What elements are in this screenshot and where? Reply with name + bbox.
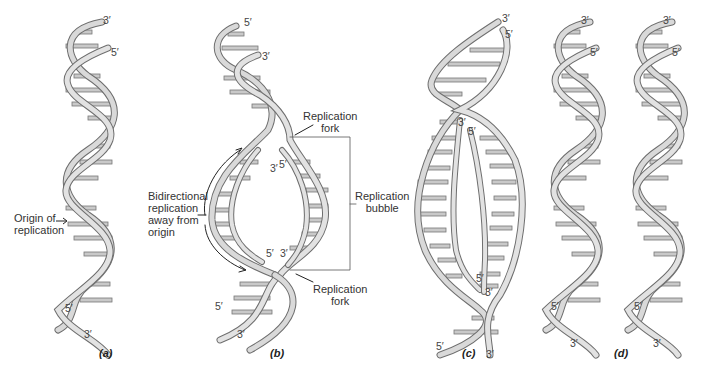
caption-c: (c) (462, 347, 475, 359)
replication-fork-top-label: Replication fork (303, 110, 357, 134)
end-label-b-bottom-5prime: 5′ (215, 300, 223, 312)
end-label-c-inner-bottom-3prime: 3′ (485, 286, 493, 298)
end-label-c-top-5prime: 5′ (505, 28, 513, 40)
bidirectional-line4: origin (148, 226, 208, 238)
helix-c-separated (418, 22, 522, 355)
bubble-line1: Replication (355, 190, 409, 202)
origin-label-line1: Origin of (14, 212, 64, 224)
end-label-d1-bottom-5prime: 5′ (551, 300, 559, 312)
replication-bubble-label: Replication bubble (355, 190, 409, 214)
fork-bottom-line2: fork (313, 295, 367, 307)
caption-b: (b) (270, 347, 284, 359)
end-label-c-inner-3prime: 3′ (458, 116, 466, 128)
end-label-d2-top-3prime: 3′ (663, 14, 671, 26)
bidirectional-line1: Bidirectional (148, 190, 208, 202)
end-label-b-inner-bottom-5prime: 5′ (266, 247, 274, 259)
end-label-b-inner-bottom-3prime: 3′ (280, 247, 288, 259)
end-label-c-top-3prime: 3′ (502, 12, 510, 24)
origin-label-line2: replication (14, 224, 64, 236)
fork-top-line1: Replication (303, 110, 357, 122)
caption-d: (d) (614, 347, 628, 359)
end-label-a-bottom-5prime: 5′ (65, 302, 73, 314)
replication-fork-bottom-label: Replication fork (313, 283, 367, 307)
end-label-d1-top-5prime: 5′ (590, 46, 598, 58)
bidirectional-line3: away from (148, 214, 208, 226)
end-label-b-top-5prime: 5′ (244, 16, 252, 28)
end-label-a-top-5prime: 5′ (111, 46, 119, 58)
dna-replication-diagram (0, 0, 722, 370)
end-label-c-inner-5prime: 5′ (468, 125, 476, 137)
fork-top-line2: fork (303, 122, 357, 134)
end-label-b-top-3prime: 3′ (262, 50, 270, 62)
end-label-d2-top-5prime: 5′ (672, 46, 680, 58)
end-label-b-inner-3prime: 3′ (270, 162, 278, 174)
end-label-d1-top-3prime: 3′ (581, 14, 589, 26)
end-label-c-bottom-3prime: 3′ (486, 348, 494, 360)
bidirectional-line2: replication (148, 202, 208, 214)
bubble-line2: bubble (355, 202, 409, 214)
caption-a: (a) (99, 347, 112, 359)
end-label-c-bottom-5prime: 5′ (436, 340, 444, 352)
end-label-d2-bottom-3prime: 3′ (653, 337, 661, 349)
end-label-b-inner-5prime: 5′ (279, 158, 287, 170)
origin-of-replication-label: Origin of replication (14, 212, 64, 236)
fork-bottom-line1: Replication (313, 283, 367, 295)
end-label-b-bottom-3prime: 3′ (237, 328, 245, 340)
end-label-a-bottom-3prime: 3′ (84, 328, 92, 340)
bidirectional-replication-label: Bidirectional replication away from orig… (148, 190, 208, 238)
end-label-c-inner-bottom-5prime: 5′ (476, 272, 484, 284)
end-label-a-top-3prime: 3′ (103, 14, 111, 26)
end-label-d2-bottom-5prime: 5′ (634, 300, 642, 312)
end-label-d1-bottom-3prime: 3′ (570, 337, 578, 349)
